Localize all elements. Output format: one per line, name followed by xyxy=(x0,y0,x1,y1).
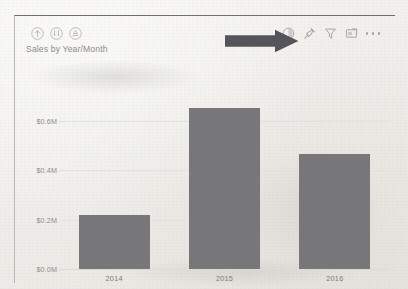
expand-all-down-icon[interactable] xyxy=(69,27,82,40)
y-axis-tick-label: $0.4M xyxy=(37,166,57,175)
powerbi-visual-card[interactable]: Sales by Year/Month xyxy=(14,15,395,283)
x-axis: 201420152016 xyxy=(59,62,390,284)
y-axis-tick-label: $0.0M xyxy=(37,265,57,274)
visual-title: Sales by Year/Month xyxy=(26,44,108,54)
drill-controls xyxy=(31,27,82,40)
x-axis-tick-label: 2015 xyxy=(216,274,233,283)
y-axis-tick-label: $0.6M xyxy=(37,116,57,125)
x-axis-tick-label: 2014 xyxy=(106,274,123,283)
screenshot-root: Sales by Year/Month xyxy=(0,0,408,289)
chart-plot-area[interactable]: $0.0M$0.2M$0.4M$0.6M 201420152016 xyxy=(15,62,396,284)
visual-header: Sales by Year/Month xyxy=(15,16,395,62)
y-axis-tick-label: $0.2M xyxy=(37,215,57,224)
focus-mode-icon[interactable] xyxy=(345,27,358,40)
x-axis-tick-label: 2016 xyxy=(326,274,343,283)
drill-down-icon[interactable] xyxy=(50,27,63,40)
pin-icon[interactable] xyxy=(303,27,316,40)
filter-icon[interactable] xyxy=(324,27,337,40)
more-options-icon[interactable] xyxy=(366,27,380,40)
y-axis: $0.0M$0.2M$0.4M$0.6M xyxy=(23,62,57,284)
pointer-arrow xyxy=(225,29,299,53)
drill-up-icon[interactable] xyxy=(31,27,44,40)
